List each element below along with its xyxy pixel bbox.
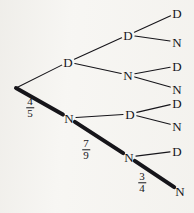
tree-node-leaf3: D (172, 60, 182, 73)
tree-node-leaf8: N (175, 185, 185, 198)
tree-node-n1d2: D (125, 108, 135, 121)
probability-p3: 34 (138, 171, 146, 194)
tree-node-leaf7: D (172, 145, 182, 158)
tree-branch-n1-to-n1d2 (76, 114, 123, 117)
probability-tree-figure: DNDNDNDNDNDNDN 457934 (0, 0, 194, 213)
probability-p2: 79 (82, 138, 90, 161)
probability-denominator: 5 (26, 109, 34, 120)
tree-branch-d1-to-d1d2 (74, 38, 121, 59)
tree-node-n1n2: N (124, 151, 134, 164)
probability-denominator: 4 (138, 184, 146, 195)
tree-node-n1: N (64, 112, 74, 125)
probability-p1: 45 (26, 96, 34, 119)
tree-node-leaf1: D (172, 7, 182, 20)
tree-branch-root-to-d1 (16, 65, 62, 88)
tree-branch-d1d2-to-leaf1 (134, 16, 170, 32)
tree-branch-d1n2-to-leaf3 (135, 67, 170, 73)
tree-branch-d1d2-to-leaf2 (135, 36, 170, 41)
tree-node-d1d2: D (123, 29, 133, 42)
tree-node-leaf6: N (172, 120, 182, 133)
tree-node-d1n2: N (123, 69, 133, 82)
tree-branch-n1n2-to-leaf7 (136, 152, 170, 156)
tree-node-leaf5: D (172, 97, 182, 110)
tree-branch-n1d2-to-leaf6 (137, 116, 170, 125)
tree-node-leaf4: N (172, 83, 182, 96)
tree-branch-root-to-n1 (16, 88, 63, 115)
tree-branch-d1-to-d1n2 (75, 63, 121, 73)
tree-node-leaf2: N (172, 36, 182, 49)
tree-branch-d1n2-to-leaf4 (135, 77, 171, 87)
probability-denominator: 9 (82, 151, 90, 162)
tree-node-d1: D (63, 56, 73, 69)
tree-branch-n1d2-to-leaf5 (137, 105, 170, 113)
